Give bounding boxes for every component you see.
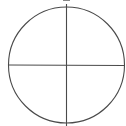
horizontal-axis-line <box>8 65 125 66</box>
quadrant-circle-diagram <box>0 0 126 126</box>
